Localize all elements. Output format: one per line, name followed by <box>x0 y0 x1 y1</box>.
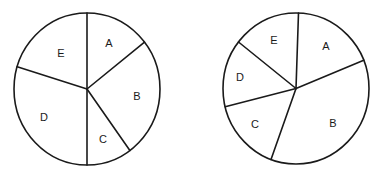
slice-label-c: C <box>99 133 107 145</box>
pie-chart-left: A B C D E <box>14 13 160 165</box>
slice-label-b: B <box>133 90 140 102</box>
slice-label-c: C <box>251 118 259 130</box>
slice-label-d: D <box>40 111 48 123</box>
slice-label-e: E <box>270 34 277 46</box>
pie-charts-canvas: A B C D E A B C D E <box>0 0 387 178</box>
pie-chart-right: A B C D E <box>223 13 369 164</box>
slice-label-b: B <box>329 117 336 129</box>
slice-label-d: D <box>236 71 244 83</box>
slice-label-a: A <box>105 37 113 49</box>
slice-label-e: E <box>57 47 64 59</box>
slice-label-a: A <box>322 40 330 52</box>
